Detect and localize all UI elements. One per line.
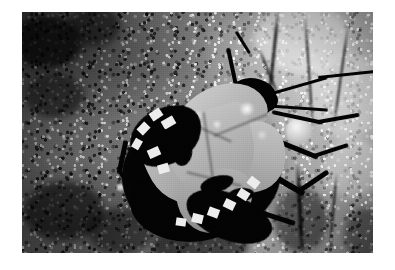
leg-foreleg-tarsus bbox=[318, 113, 360, 124]
shell-specular-highlight bbox=[212, 120, 222, 129]
shield-bug bbox=[22, 12, 373, 253]
leg-midleg-tarsus bbox=[313, 143, 348, 158]
connexivum-stripe bbox=[175, 217, 186, 226]
leg-hindleg-tarsus bbox=[299, 169, 330, 192]
image-caption: shield bug (stink bug) on tree bark bbox=[0, 0, 1, 1]
photograph-page: shield bug (stink bug) on tree bark bbox=[0, 0, 395, 270]
shell-specular-highlight bbox=[238, 102, 256, 116]
antenna bbox=[235, 31, 251, 55]
photo-plate bbox=[22, 12, 373, 253]
shell-specular-highlight bbox=[256, 130, 268, 140]
antenna bbox=[318, 70, 373, 79]
